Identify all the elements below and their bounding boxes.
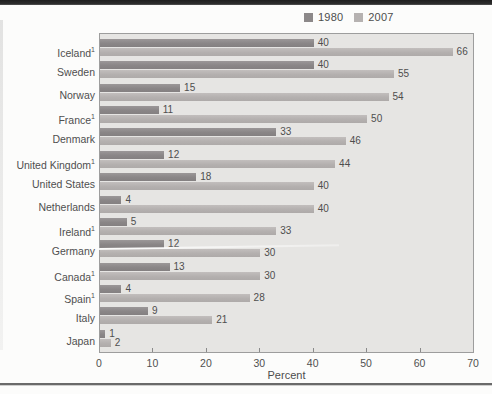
bar-2007-japan [100, 339, 111, 347]
scanned-page: 1980 2007 406640551554115033461244184044… [0, 0, 492, 394]
category-label-united-kingdom: United Kingdom1 [0, 155, 95, 172]
footnote-marker: 1 [91, 158, 95, 165]
x-axis-tick-50 [366, 348, 367, 352]
category-label-netherlands: Netherlands [0, 200, 95, 214]
bar-value-label-1980-norway: 15 [184, 83, 195, 93]
footnote-marker: 1 [91, 270, 95, 277]
bar-2007-iceland [100, 48, 453, 56]
bar-2007-germany [100, 249, 260, 257]
bar-value-label-2007-netherlands: 40 [318, 204, 329, 214]
category-label-denmark: Denmark [0, 132, 95, 146]
bar-1980-norway [100, 84, 180, 92]
category-label-japan: Japan [0, 334, 95, 348]
bar-value-label-2007-japan: 2 [115, 338, 121, 348]
x-axis-tick-20 [206, 348, 207, 352]
bar-value-label-1980-spain: 4 [125, 284, 131, 294]
bar-1980-france [100, 106, 159, 114]
bar-2007-canada [100, 272, 260, 280]
bar-2007-italy [100, 316, 212, 324]
bar-2007-united-states [100, 182, 314, 190]
bar-value-label-2007-ireland: 33 [280, 226, 291, 236]
bar-value-label-1980-germany: 12 [168, 239, 179, 249]
category-label-iceland: Iceland1 [0, 43, 95, 60]
bar-2007-spain [100, 294, 250, 302]
x-axis-tick-60 [420, 348, 421, 352]
bar-2007-france [100, 115, 367, 123]
bar-2007-ireland [100, 227, 276, 235]
bar-value-label-1980-denmark: 33 [280, 127, 291, 137]
legend-swatch-1980-icon [304, 13, 313, 22]
legend-item-2007: 2007 [354, 11, 393, 23]
bar-value-label-1980-italy: 9 [152, 306, 158, 316]
category-label-spain: Spain1 [0, 289, 95, 306]
x-axis-tick-label-20: 20 [191, 357, 221, 369]
x-axis-tick-30 [259, 348, 260, 352]
bar-2007-united-kingdom [100, 160, 335, 168]
category-label-canada: Canada1 [0, 267, 95, 284]
bar-1980-canada [100, 263, 170, 271]
x-axis-tick-label-50: 50 [351, 357, 381, 369]
bar-value-label-2007-france: 50 [371, 114, 382, 124]
bar-2007-sweden [100, 70, 394, 78]
x-axis-tick-label-30: 30 [244, 357, 274, 369]
bar-1980-spain [100, 285, 121, 293]
bar-2007-norway [100, 93, 389, 101]
bar-1980-italy [100, 307, 148, 315]
bar-value-label-2007-united-states: 40 [318, 181, 329, 191]
footnote-marker: 1 [91, 46, 95, 53]
page-top-rule [0, 0, 492, 5]
bar-value-label-1980-france: 11 [163, 105, 173, 115]
bar-1980-denmark [100, 128, 276, 136]
bar-1980-united-states [100, 173, 196, 181]
legend-label-2007: 2007 [368, 11, 393, 23]
bar-1980-united-kingdom [100, 151, 164, 159]
legend-label-1980: 1980 [318, 11, 343, 23]
bar-value-label-2007-germany: 30 [264, 248, 275, 258]
x-axis-tick-label-0: 0 [84, 357, 114, 369]
legend-swatch-2007-icon [354, 13, 363, 22]
x-axis-tick-label-40: 40 [298, 357, 328, 369]
bar-value-label-2007-iceland: 66 [457, 47, 468, 57]
bar-1980-germany [100, 240, 164, 248]
category-label-sweden: Sweden [0, 65, 95, 79]
x-axis-title: Percent [99, 369, 474, 381]
x-axis-tick-label-70: 70 [458, 357, 488, 369]
category-label-ireland: Ireland1 [0, 222, 95, 239]
scan-edge-artifact [0, 20, 3, 350]
bar-1980-ireland [100, 218, 127, 226]
bar-value-label-2007-norway: 54 [393, 92, 404, 102]
category-label-france: France1 [0, 110, 95, 127]
category-label-germany: Germany [0, 244, 95, 258]
bar-value-label-2007-spain: 28 [254, 293, 265, 303]
bar-1980-japan [100, 330, 105, 338]
bar-value-label-1980-united-kingdom: 12 [168, 150, 179, 160]
footnote-marker: 1 [91, 113, 95, 120]
bar-value-label-1980-ireland: 5 [131, 217, 137, 227]
page-bottom-rule [0, 383, 492, 385]
bar-value-label-1980-iceland: 40 [318, 38, 329, 48]
chart-legend: 1980 2007 [304, 11, 394, 23]
bar-value-label-2007-italy: 21 [216, 315, 227, 325]
bar-1980-netherlands [100, 196, 121, 204]
bar-1980-iceland [100, 39, 314, 47]
bar-value-label-2007-united-kingdom: 44 [339, 159, 350, 169]
bar-value-label-2007-canada: 30 [264, 271, 275, 281]
bar-value-label-2007-denmark: 46 [350, 136, 361, 146]
footnote-marker: 1 [91, 292, 95, 299]
legend-item-1980: 1980 [304, 11, 343, 23]
bar-value-label-1980-united-states: 18 [200, 172, 211, 182]
footnote-marker: 1 [91, 225, 95, 232]
x-axis-tick-10 [152, 348, 153, 352]
bar-value-label-2007-sweden: 55 [398, 69, 409, 79]
bar-value-label-1980-netherlands: 4 [125, 195, 131, 205]
bar-1980-sweden [100, 61, 314, 69]
bar-2007-netherlands [100, 205, 314, 213]
bar-value-label-1980-canada: 13 [174, 262, 185, 272]
x-axis-tick-label-10: 10 [137, 357, 167, 369]
category-label-norway: Norway [0, 88, 95, 102]
category-label-italy: Italy [0, 311, 95, 325]
bar-2007-denmark [100, 137, 346, 145]
x-axis-tick-40 [313, 348, 314, 352]
bar-value-label-1980-sweden: 40 [318, 60, 329, 70]
category-label-united-states: United States [0, 177, 95, 191]
